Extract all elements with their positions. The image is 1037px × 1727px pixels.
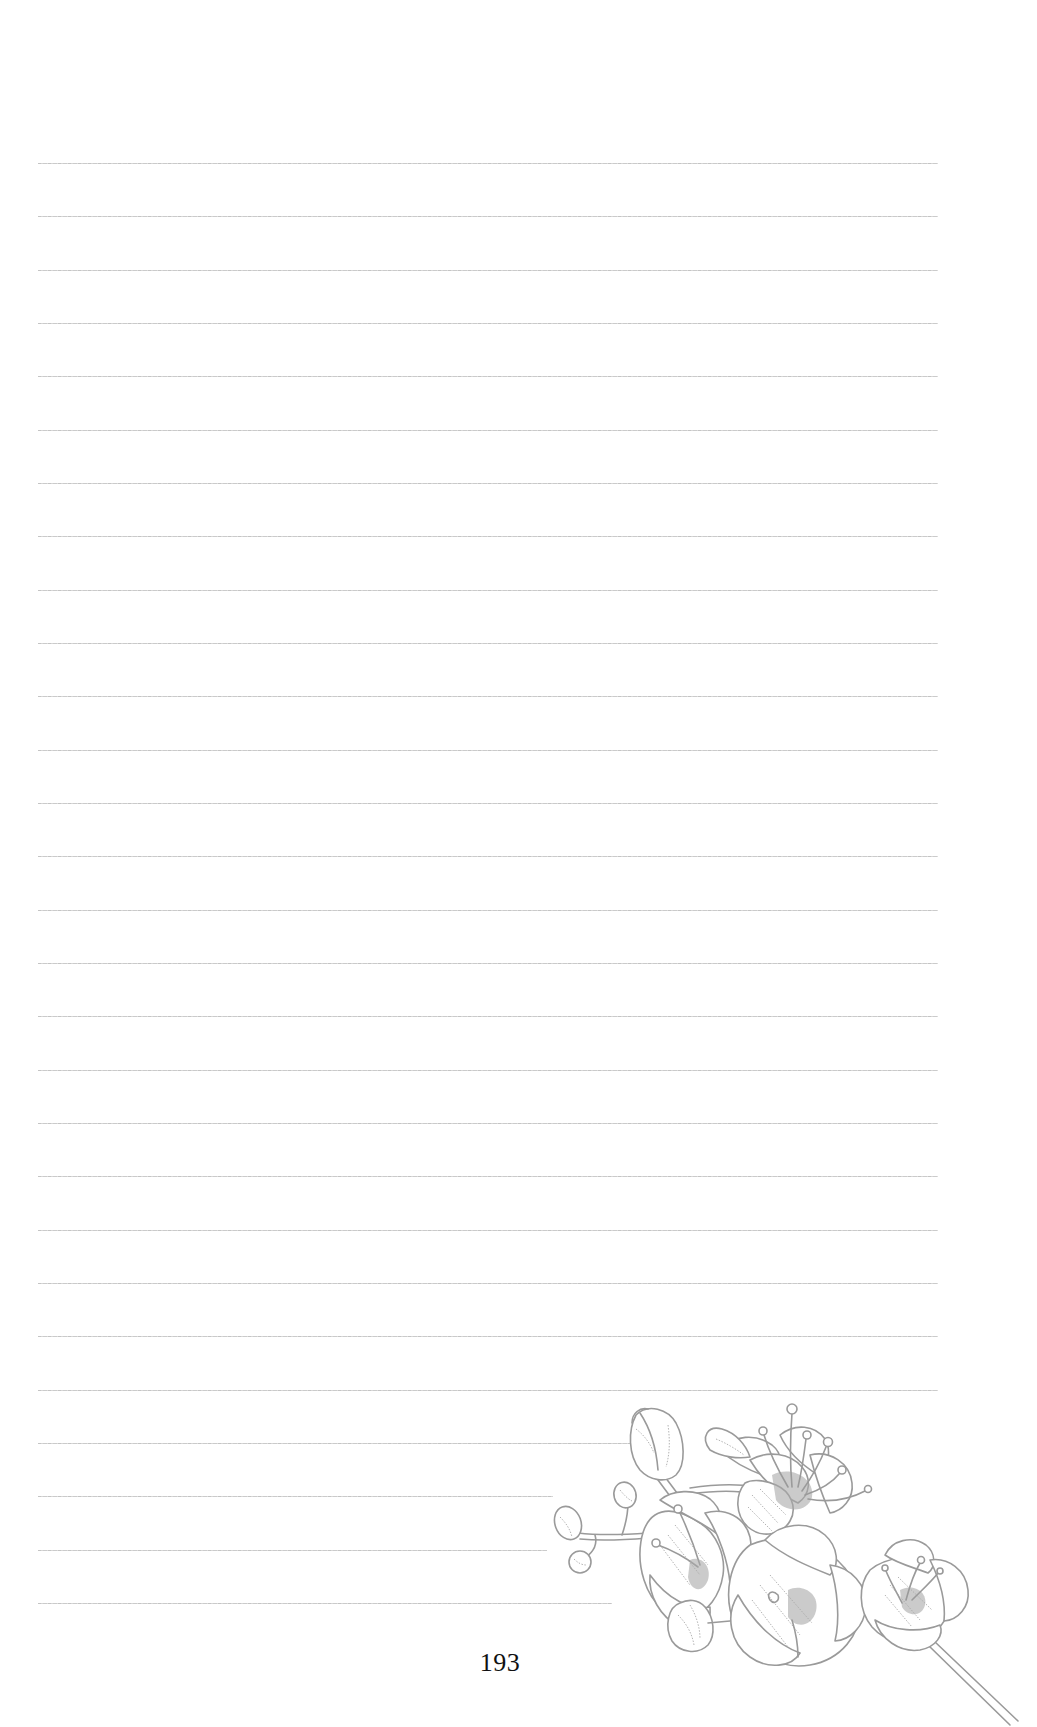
- ruled-line: [38, 430, 938, 431]
- ruled-line: [38, 696, 938, 697]
- ruled-line: [38, 1230, 938, 1231]
- ruled-line: [38, 323, 938, 324]
- ruled-line: [38, 1496, 553, 1497]
- ruled-line: [38, 590, 938, 591]
- ruled-line: [38, 163, 938, 164]
- ruled-line: [38, 1336, 938, 1337]
- ruled-line: [38, 750, 938, 751]
- ruled-line: [38, 803, 938, 804]
- ruled-line: [38, 536, 938, 537]
- ruled-line: [38, 270, 938, 271]
- ruled-line: [38, 1550, 547, 1551]
- ruled-line: [38, 963, 938, 964]
- ruled-line: [38, 910, 938, 911]
- ruled-line: [38, 216, 938, 217]
- notebook-page: 193: [0, 0, 1037, 1727]
- ruled-line: [38, 376, 938, 377]
- ruled-line: [38, 1603, 612, 1604]
- ruled-line: [38, 483, 938, 484]
- page-number: 193: [0, 1648, 1000, 1678]
- ruled-line: [38, 1283, 938, 1284]
- ruled-line: [38, 1070, 938, 1071]
- ruled-line: [38, 856, 938, 857]
- ruled-line: [38, 643, 938, 644]
- ruled-line: [38, 1016, 938, 1017]
- ruled-line: [38, 1390, 938, 1391]
- ruled-line: [38, 1176, 938, 1177]
- ruled-line: [38, 1123, 938, 1124]
